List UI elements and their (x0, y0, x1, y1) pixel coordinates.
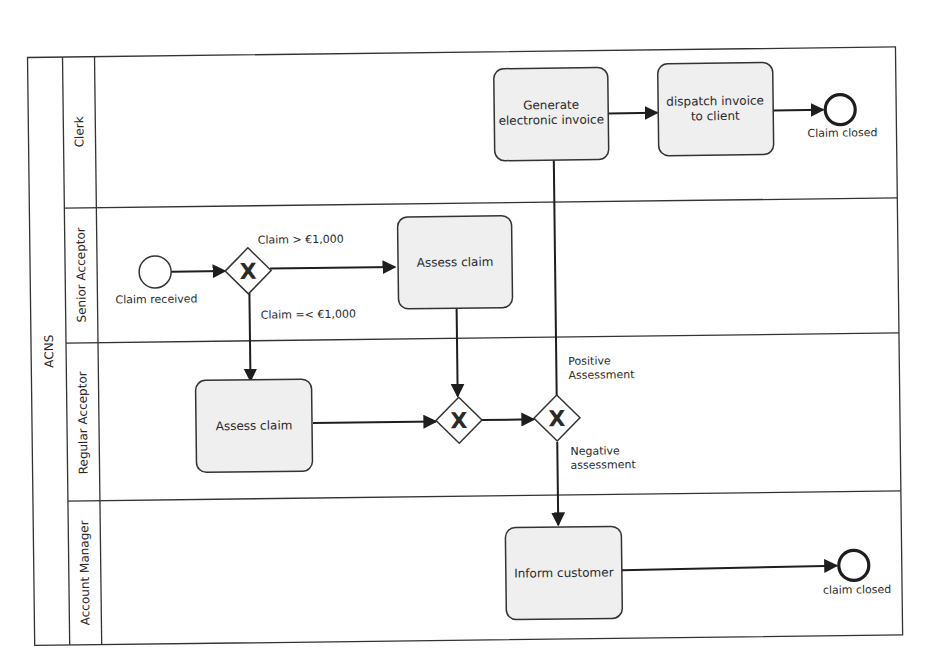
end-event-account-label: claim closed (823, 583, 892, 597)
bpmn-diagram: ACNS Clerk Senior Acceptor Regular Accep… (0, 0, 949, 664)
flow-start-to-split[interactable] (171, 271, 225, 272)
lane-header-divider (95, 57, 102, 645)
gateway-assessment[interactable]: X (534, 395, 581, 442)
lane-divider (64, 198, 897, 208)
flow-dispatch-to-end[interactable] (773, 110, 823, 111)
flow-label-high-claim: Claim > €1,000 (258, 233, 344, 247)
flow-high-claim[interactable] (270, 267, 395, 269)
gateway-x-icon: X (548, 406, 565, 431)
flow-label-positive-1: Positive (568, 354, 611, 368)
lane-label-clerk: Clerk (72, 116, 86, 147)
flow-label-negative-2: assessment (570, 458, 636, 472)
task-assess-claim-senior[interactable]: Assess claim (397, 216, 512, 309)
task-label: Generate (523, 98, 579, 113)
task-inform-customer[interactable]: Inform customer (505, 526, 622, 619)
flow-negative[interactable] (557, 442, 558, 525)
task-label: dispatch invoice (666, 94, 764, 109)
task-assess-claim-regular[interactable]: Assess claim (195, 379, 312, 472)
task-label: electronic invoice (499, 112, 605, 127)
end-event-clerk-label: Claim closed (807, 126, 877, 140)
task-label: Inform customer (514, 565, 614, 580)
flow-inform-to-end[interactable] (622, 566, 837, 571)
flow-low-claim[interactable] (249, 293, 250, 381)
lane-label-regular-acceptor: Regular Acceptor (75, 371, 90, 474)
pool-header-divider (63, 57, 70, 645)
end-event-account[interactable] (839, 550, 869, 580)
lane-label-account-manager: Account Manager (77, 520, 92, 625)
lane-divider (68, 491, 901, 501)
flow-merge-to-assessment[interactable] (482, 419, 534, 420)
flow-label-low-claim: Claim =< €1,000 (261, 308, 356, 322)
task-dispatch-invoice[interactable]: dispatch invoice to client (658, 62, 774, 155)
gateway-split-amount[interactable]: X (225, 248, 272, 295)
flow-label-negative-1: Negative (570, 444, 620, 458)
task-label: Assess claim (216, 418, 293, 433)
lane-divider (66, 333, 899, 343)
start-event-label: Claim received (115, 292, 197, 306)
task-label: Assess claim (417, 255, 494, 270)
task-label: to client (691, 109, 740, 124)
start-event[interactable] (139, 256, 171, 288)
flow-regular-to-merge[interactable] (313, 422, 436, 424)
end-event-clerk[interactable] (825, 94, 855, 124)
flow-positive[interactable] (554, 136, 557, 395)
flow-generate-to-dispatch[interactable] (608, 113, 657, 114)
flow-label-positive-2: Assessment (568, 368, 635, 382)
lane-label-senior-acceptor: Senior Acceptor (74, 227, 89, 322)
pool-label: ACNS (42, 335, 56, 368)
flow-senior-to-merge[interactable] (457, 308, 458, 396)
task-generate-invoice[interactable]: Generate electronic invoice (494, 67, 609, 160)
gateway-x-icon: X (450, 408, 467, 433)
gateway-merge[interactable]: X (436, 397, 483, 444)
gateway-x-icon: X (240, 259, 257, 284)
